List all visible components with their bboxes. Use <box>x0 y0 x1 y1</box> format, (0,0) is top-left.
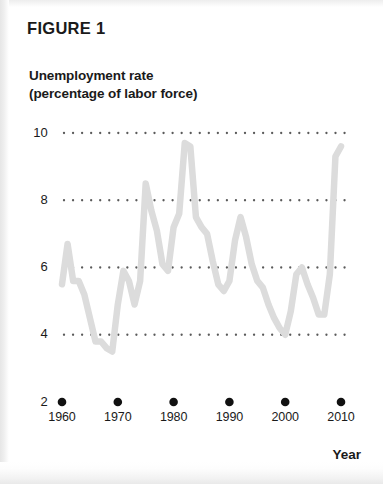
gridline-dot <box>244 334 246 336</box>
gridline-dot <box>307 266 309 268</box>
gridline-dot <box>90 199 92 201</box>
gridline-dot <box>81 199 83 201</box>
gridline-dot <box>117 266 119 268</box>
x-tick-marker <box>225 398 234 407</box>
gridline-dot <box>135 132 137 134</box>
gridline-dot <box>181 334 183 336</box>
gridline-dot <box>316 266 318 268</box>
gridline-dot <box>253 199 255 201</box>
gridline-dot <box>343 334 345 336</box>
x-tick-label: 1990 <box>206 410 252 424</box>
gridline-dot <box>181 266 183 268</box>
gridline-dot <box>262 334 264 336</box>
gridline-dot <box>271 199 273 201</box>
gridline-dot <box>289 132 291 134</box>
gridline-dot <box>244 132 246 134</box>
gridline-dot <box>271 266 273 268</box>
gridline-dot <box>217 334 219 336</box>
gridline-dot <box>171 334 173 336</box>
gridline-dot <box>235 132 237 134</box>
gridline-dot <box>135 334 137 336</box>
gridline-dot <box>244 266 246 268</box>
gridline-dot <box>171 132 173 134</box>
gridline-dot <box>271 334 273 336</box>
gridline-dot <box>235 266 237 268</box>
gridline-dot <box>325 199 327 201</box>
gridline-dot <box>280 266 282 268</box>
gridline-dot <box>226 132 228 134</box>
gridline-dot <box>99 266 101 268</box>
gridline-dot <box>217 199 219 201</box>
gridline-dot <box>135 199 137 201</box>
gridline-dot <box>162 334 164 336</box>
gridline-dot <box>81 132 83 134</box>
gridline-dot <box>226 199 228 201</box>
gridline-dot <box>253 132 255 134</box>
gridline-dot <box>343 132 345 134</box>
gridline-dot <box>190 334 192 336</box>
gridline-dot <box>253 334 255 336</box>
x-tick-label: 1980 <box>151 410 197 424</box>
gridline-dot <box>171 199 173 201</box>
gridline-dot <box>117 132 119 134</box>
x-tick-marker <box>281 398 290 407</box>
y-tick-label: 10 <box>26 125 48 140</box>
gridline-dot <box>126 266 128 268</box>
gridline-dot <box>343 266 345 268</box>
gridline-dot <box>289 199 291 201</box>
gridline-dot <box>208 266 210 268</box>
gridline-dot <box>289 334 291 336</box>
gridline-dot <box>144 334 146 336</box>
gridline-dot <box>72 334 74 336</box>
gridline-dot <box>190 132 192 134</box>
x-tick-marker <box>337 398 346 407</box>
gridline-dot <box>63 334 65 336</box>
gridline-dot <box>280 132 282 134</box>
gridline-dot <box>262 199 264 201</box>
gridline-dot <box>235 334 237 336</box>
gridline-dot <box>334 334 336 336</box>
gridline-dot <box>153 334 155 336</box>
x-tick-marker <box>58 398 67 407</box>
gridline-dot <box>135 266 137 268</box>
gridline-dot <box>181 132 183 134</box>
gridline-dot <box>298 132 300 134</box>
x-tick-label: 2000 <box>262 410 308 424</box>
gridline-dot <box>72 132 74 134</box>
gridline-dot <box>208 132 210 134</box>
gridline-dot <box>81 266 83 268</box>
gridline-dot <box>244 199 246 201</box>
gridline-dot <box>316 132 318 134</box>
gridline-dot <box>162 132 164 134</box>
gridline-dot <box>190 266 192 268</box>
gridline-dot <box>199 199 201 201</box>
gridline-dot <box>199 334 201 336</box>
x-tick-label: 1960 <box>39 410 85 424</box>
gridline-dot <box>199 266 201 268</box>
gridline-dot <box>126 334 128 336</box>
gridline-dot <box>334 132 336 134</box>
gridline-dot <box>298 199 300 201</box>
gridline-dot <box>108 334 110 336</box>
gridline-dot <box>90 266 92 268</box>
gridline-dot <box>63 132 65 134</box>
gridline-dot <box>307 132 309 134</box>
gridline-dot <box>162 199 164 201</box>
y-tick-label: 2 <box>26 394 48 409</box>
gridline-dot <box>316 334 318 336</box>
gridline-dot <box>316 199 318 201</box>
gridline-dot <box>343 199 345 201</box>
gridline-dot <box>262 132 264 134</box>
x-tick-label: 1970 <box>95 410 141 424</box>
gridline-dot <box>72 199 74 201</box>
figure-page: FIGURE 1 Unemployment rate (percentage o… <box>0 0 383 484</box>
gridline-dot <box>199 132 201 134</box>
gridline-dot <box>235 199 237 201</box>
gridline-dot <box>307 199 309 201</box>
gridline-dot <box>108 132 110 134</box>
gridline-dot <box>334 266 336 268</box>
gridline-dot <box>289 266 291 268</box>
gridline-dot <box>126 199 128 201</box>
gridline-dot <box>117 199 119 201</box>
gridline-dot <box>144 132 146 134</box>
